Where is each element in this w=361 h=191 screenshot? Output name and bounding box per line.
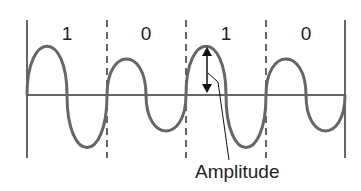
bit-label-1: 1 xyxy=(62,23,73,44)
amplitude-modulation-diagram: 1 0 1 0 Amplitude xyxy=(0,0,361,191)
bit-label-4: 0 xyxy=(301,23,312,44)
bit-label-3: 1 xyxy=(221,23,232,44)
amplitude-arrow-icon xyxy=(202,47,212,93)
bit-label-2: 0 xyxy=(141,23,152,44)
amplitude-label: Amplitude xyxy=(195,161,280,182)
